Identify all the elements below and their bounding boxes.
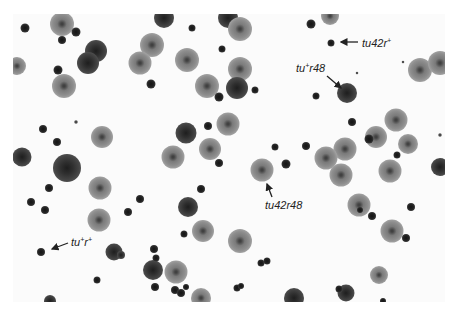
plaque xyxy=(53,154,81,182)
plaque xyxy=(402,61,405,64)
plaque xyxy=(356,72,359,75)
plaque xyxy=(348,118,356,126)
plaque xyxy=(357,207,363,213)
plaque xyxy=(54,66,63,75)
plaque xyxy=(44,295,56,302)
plaque xyxy=(197,185,205,193)
plaque xyxy=(337,83,357,103)
plaque xyxy=(330,164,353,187)
plaque xyxy=(181,231,188,238)
plaque xyxy=(94,277,101,284)
plaque xyxy=(284,288,304,302)
label-tu-plus-r48: tu+r48 xyxy=(296,62,325,74)
plaque xyxy=(153,255,160,262)
plaque xyxy=(13,148,32,167)
plaque xyxy=(74,120,78,124)
plaque xyxy=(398,134,418,154)
plaque xyxy=(428,51,445,75)
plaque xyxy=(272,144,279,151)
plaque xyxy=(336,286,343,293)
plaque xyxy=(45,184,53,192)
plaque xyxy=(199,138,221,160)
plaque xyxy=(204,122,212,130)
plaque xyxy=(13,57,26,75)
plaque xyxy=(368,212,376,220)
plaque-photo xyxy=(13,14,445,302)
plaque xyxy=(150,245,158,253)
plaque xyxy=(50,14,74,36)
label-tu-plus-r-plus: tu+r+ xyxy=(71,236,92,248)
plaque xyxy=(215,93,224,102)
plaque xyxy=(91,126,113,148)
plaque xyxy=(136,195,144,203)
plaque xyxy=(177,289,185,297)
label-tu42r-plus: tu42r+ xyxy=(362,37,391,49)
plaque xyxy=(307,20,316,29)
plaque xyxy=(348,194,371,217)
plaque xyxy=(41,206,49,214)
plaque xyxy=(313,93,320,100)
plaque xyxy=(321,14,339,25)
plaque xyxy=(217,113,240,136)
plaque xyxy=(162,146,185,169)
plaque xyxy=(219,46,226,53)
plaque xyxy=(252,87,259,94)
plaque xyxy=(438,133,442,137)
plaque xyxy=(58,36,66,44)
plaque xyxy=(191,288,211,302)
plaque xyxy=(302,142,310,150)
plaque xyxy=(251,159,274,182)
plaque xyxy=(21,24,30,33)
plaque xyxy=(394,152,401,159)
plaque xyxy=(328,40,335,47)
label-tu42r48: tu42r48 xyxy=(265,200,302,211)
plaque xyxy=(379,160,402,183)
plaque xyxy=(365,135,374,144)
plaque xyxy=(385,109,408,132)
plaque xyxy=(381,220,404,243)
plaque xyxy=(154,14,174,28)
plaque xyxy=(238,283,244,289)
plaque xyxy=(228,229,252,253)
plaque xyxy=(370,266,388,284)
plaque xyxy=(53,138,61,146)
plaque xyxy=(117,251,125,259)
plaque xyxy=(189,25,196,32)
plaque xyxy=(176,123,197,144)
plaque xyxy=(175,48,199,72)
plaque xyxy=(89,177,112,200)
plaque xyxy=(77,52,99,74)
plaque xyxy=(228,17,252,41)
plaque xyxy=(215,159,223,167)
plaque xyxy=(192,220,214,242)
plaque xyxy=(183,284,189,290)
plaque xyxy=(380,298,386,302)
plaque xyxy=(72,28,81,37)
plaque xyxy=(129,52,152,75)
plaque xyxy=(165,261,188,284)
plaque xyxy=(151,283,159,291)
plaque xyxy=(88,209,111,232)
plaque xyxy=(124,208,132,216)
plaque xyxy=(402,234,410,242)
plaque xyxy=(143,260,163,280)
plaque xyxy=(37,248,45,256)
plaque xyxy=(431,158,445,176)
plaque xyxy=(407,203,415,211)
plaque xyxy=(27,198,35,206)
plaque xyxy=(178,197,198,217)
plaque xyxy=(147,80,156,89)
plaque xyxy=(264,258,271,265)
plaque xyxy=(39,125,47,133)
plaque xyxy=(282,160,291,169)
plaque xyxy=(226,77,248,99)
plaque xyxy=(52,74,76,98)
